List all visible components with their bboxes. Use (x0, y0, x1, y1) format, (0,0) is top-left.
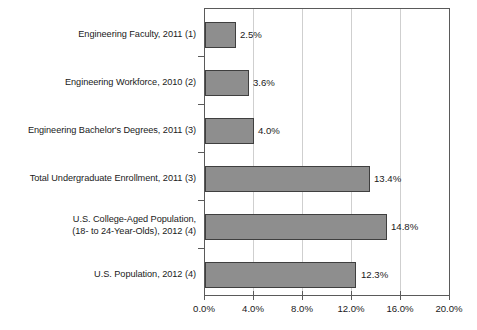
bar-value-label: 14.8% (391, 214, 418, 240)
category-label-line: (18- to 24-Year-Olds), 2012 (4) (0, 225, 196, 237)
x-axis-line (204, 295, 450, 296)
x-axis-tick-label: 20.0% (425, 303, 473, 314)
gridline (302, 9, 303, 295)
y-axis-tick (198, 152, 204, 153)
bar (205, 118, 254, 144)
bar (205, 262, 356, 288)
bar-value-label: 12.3% (361, 262, 388, 288)
plot-area (204, 8, 450, 296)
x-axis-tick-label: 0.0% (182, 303, 226, 314)
category-label: Engineering Faculty, 2011 (1) (0, 28, 196, 40)
y-axis-tick (198, 200, 204, 201)
category-label: Engineering Bachelor's Degrees, 2011 (3) (0, 124, 196, 136)
bar (205, 22, 236, 48)
category-label: U.S. College-Aged Population, (18- to 24… (0, 213, 196, 238)
category-label-line: U.S. Population, 2012 (4) (0, 268, 196, 280)
x-axis-tick (449, 291, 450, 300)
bar-value-label: 13.4% (374, 166, 401, 192)
x-axis-tick (400, 291, 401, 300)
gridline (400, 9, 401, 295)
x-axis-tick-label: 12.0% (327, 303, 375, 314)
category-label: Engineering Workforce, 2010 (2) (0, 76, 196, 88)
x-axis-tick (204, 291, 205, 300)
category-label-line: Engineering Workforce, 2010 (2) (0, 76, 196, 88)
gridline (351, 9, 352, 295)
gridline (253, 9, 254, 295)
category-label-line: Total Undergraduate Enrollment, 2011 (3) (0, 172, 196, 184)
bar-value-label: 3.6% (253, 70, 275, 96)
bar-value-label: 4.0% (258, 118, 280, 144)
y-axis-tick (198, 56, 204, 57)
bar-value-label: 2.5% (240, 22, 262, 48)
category-label: Total Undergraduate Enrollment, 2011 (3) (0, 172, 196, 184)
category-label-line: Engineering Bachelor's Degrees, 2011 (3) (0, 124, 196, 136)
category-label-line: U.S. College-Aged Population, (0, 213, 196, 225)
x-axis-tick-label: 4.0% (231, 303, 275, 314)
x-axis-tick (253, 291, 254, 300)
bar-chart: Engineering Faculty, 2011 (1) 2.5% Engin… (0, 0, 477, 330)
category-label-line: Engineering Faculty, 2011 (1) (0, 28, 196, 40)
x-axis-tick-label: 16.0% (376, 303, 424, 314)
bar (205, 214, 387, 240)
category-label: U.S. Population, 2012 (4) (0, 268, 196, 280)
bar (205, 166, 370, 192)
x-axis-tick (351, 291, 352, 300)
y-axis-tick (198, 248, 204, 249)
y-axis-tick (198, 104, 204, 105)
x-axis-tick-label: 8.0% (280, 303, 324, 314)
bar (205, 70, 249, 96)
x-axis-tick (302, 291, 303, 300)
